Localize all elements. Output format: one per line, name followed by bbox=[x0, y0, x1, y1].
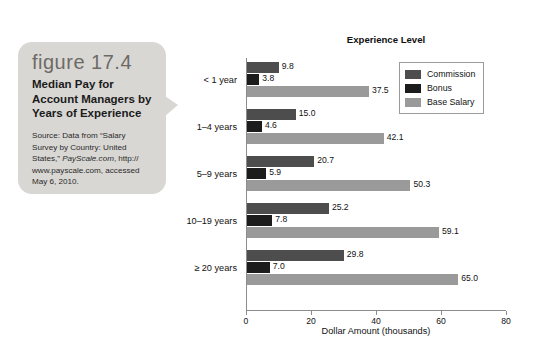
bar-value-label: 25.2 bbox=[329, 202, 349, 212]
category-label: 5–9 years bbox=[197, 169, 237, 179]
bar-row: 7.0 bbox=[247, 262, 506, 273]
bar-row: 50.3 bbox=[247, 180, 506, 191]
bar-value-label: 9.8 bbox=[279, 61, 294, 71]
bar-commission bbox=[247, 109, 296, 120]
bar-bonus bbox=[247, 74, 259, 85]
bar-value-label: 37.5 bbox=[369, 85, 389, 95]
bar-bonus bbox=[247, 262, 270, 273]
legend-item: Commission bbox=[405, 67, 475, 81]
bar-group: 5–9 years20.75.950.3 bbox=[247, 156, 506, 192]
bar-bonus bbox=[247, 215, 272, 226]
x-tick-mark bbox=[506, 311, 507, 315]
bar-row: 65.0 bbox=[247, 274, 506, 285]
bar-value-label: 7.8 bbox=[272, 214, 287, 224]
bar-value-label: 65.0 bbox=[458, 273, 478, 283]
bar-value-label: 42.1 bbox=[384, 132, 404, 142]
figure-title: Median Pay for Account Managers by Years… bbox=[32, 77, 154, 121]
source-line-1: Source: Data from “Salary bbox=[32, 131, 126, 140]
chart-title: Experience Level bbox=[236, 34, 536, 45]
bar-value-label: 4.6 bbox=[262, 120, 277, 130]
bar-base-salary bbox=[247, 133, 384, 144]
bar-row: 29.8 bbox=[247, 250, 506, 261]
figure-source: Source: Data from “Salary Survey by Coun… bbox=[32, 130, 154, 187]
category-label: 10–19 years bbox=[186, 216, 237, 226]
bar-value-label: 59.1 bbox=[439, 226, 459, 236]
bar-row: 20.7 bbox=[247, 156, 506, 167]
source-line-2: Survey by Country: United bbox=[32, 143, 126, 152]
legend-item: Base Salary bbox=[405, 95, 475, 109]
x-tick-label: 0 bbox=[244, 316, 249, 326]
x-tick-label: 40 bbox=[371, 316, 381, 326]
source-line-3-pre: States,” bbox=[32, 154, 62, 163]
bar-row: 5.9 bbox=[247, 168, 506, 179]
x-tick-mark bbox=[376, 311, 377, 315]
legend-item: Bonus bbox=[405, 81, 475, 95]
bar-value-label: 3.8 bbox=[259, 73, 274, 83]
legend-swatch bbox=[405, 84, 421, 93]
bar-row: 25.2 bbox=[247, 203, 506, 214]
legend-label: Base Salary bbox=[427, 97, 474, 107]
legend-swatch bbox=[405, 98, 421, 107]
x-tick-mark bbox=[311, 311, 312, 315]
bar-commission bbox=[247, 203, 329, 214]
source-line-4: www.payscale.com, accessed bbox=[32, 166, 140, 175]
bar-commission bbox=[247, 156, 314, 167]
figure-number: figure 17.4 bbox=[32, 52, 154, 73]
category-label: 1–4 years bbox=[197, 122, 237, 132]
legend-label: Commission bbox=[427, 69, 475, 79]
bar-value-label: 50.3 bbox=[410, 179, 430, 189]
caption-pointer bbox=[165, 96, 178, 116]
bar-value-label: 15.0 bbox=[296, 108, 316, 118]
bar-value-label: 5.9 bbox=[266, 167, 281, 177]
bar-value-label: 29.8 bbox=[344, 249, 364, 259]
x-tick-label: 60 bbox=[436, 316, 446, 326]
caption-callout: figure 17.4 Median Pay for Account Manag… bbox=[18, 42, 166, 194]
bar-row: 42.1 bbox=[247, 133, 506, 144]
bar-group: 1–4 years15.04.642.1 bbox=[247, 109, 506, 145]
bar-value-label: 7.0 bbox=[270, 261, 285, 271]
bar-row: 59.1 bbox=[247, 227, 506, 238]
bar-group: 10–19 years25.27.859.1 bbox=[247, 203, 506, 239]
bar-bonus bbox=[247, 121, 262, 132]
category-label: ≥ 20 years bbox=[194, 263, 237, 273]
bar-commission bbox=[247, 250, 344, 261]
chart-legend: CommissionBonusBase Salary bbox=[399, 62, 484, 114]
bar-base-salary bbox=[247, 227, 439, 238]
x-tick-mark bbox=[246, 311, 247, 315]
category-label: < 1 year bbox=[204, 75, 237, 85]
bar-row: 4.6 bbox=[247, 121, 506, 132]
bar-bonus bbox=[247, 168, 266, 179]
source-publication: PayScale.com bbox=[62, 154, 114, 163]
source-line-5: May 6, 2010. bbox=[32, 177, 79, 186]
x-tick-mark bbox=[441, 311, 442, 315]
bar-value-label: 20.7 bbox=[314, 155, 334, 165]
x-tick-label: 80 bbox=[501, 316, 511, 326]
bar-commission bbox=[247, 62, 279, 73]
bar-base-salary bbox=[247, 180, 410, 191]
x-tick-label: 20 bbox=[306, 316, 316, 326]
legend-swatch bbox=[405, 70, 421, 79]
legend-label: Bonus bbox=[427, 83, 452, 93]
bar-base-salary bbox=[247, 274, 458, 285]
figure-page: figure 17.4 Median Pay for Account Manag… bbox=[0, 0, 551, 347]
x-axis-label: Dollar Amount (thousands) bbox=[246, 326, 506, 336]
bar-base-salary bbox=[247, 86, 369, 97]
bar-group: ≥ 20 years29.87.065.0 bbox=[247, 250, 506, 286]
source-line-3-post: , http:// bbox=[114, 154, 139, 163]
bar-row: 7.8 bbox=[247, 215, 506, 226]
